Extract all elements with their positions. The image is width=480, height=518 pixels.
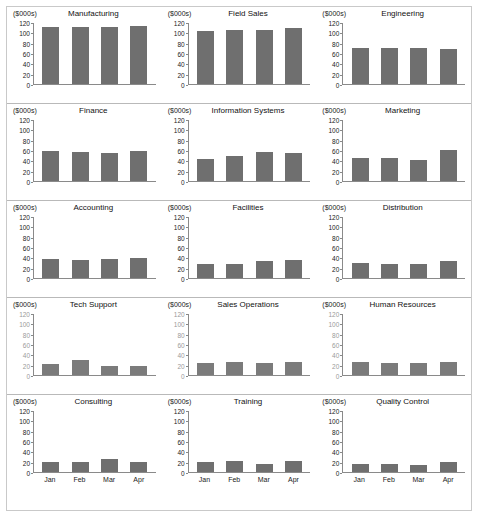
bar[interactable] — [42, 364, 59, 375]
bar[interactable] — [130, 26, 147, 84]
plot-canvas — [342, 23, 465, 85]
bar[interactable] — [226, 461, 243, 472]
bar[interactable] — [72, 360, 89, 376]
bar[interactable] — [226, 156, 243, 181]
bar[interactable] — [130, 258, 147, 278]
bar[interactable] — [285, 362, 302, 375]
y-axis-tick-label: 40 — [177, 255, 184, 262]
y-axis-tick-label: 60 — [332, 148, 339, 155]
bar[interactable] — [352, 48, 369, 84]
plot-area: 020406080100120 — [11, 23, 156, 99]
bar[interactable] — [381, 264, 398, 278]
bar[interactable] — [101, 366, 118, 375]
bar[interactable] — [226, 264, 243, 278]
bar[interactable] — [226, 362, 243, 375]
y-axis-tick-label: 60 — [23, 148, 30, 155]
bar[interactable] — [72, 152, 89, 181]
bar[interactable] — [285, 153, 302, 181]
y-axis-tick-label: 80 — [177, 137, 184, 144]
bar[interactable] — [101, 27, 118, 84]
bar[interactable] — [440, 49, 457, 84]
bar[interactable] — [285, 260, 302, 278]
bar[interactable] — [197, 462, 214, 472]
plot-canvas — [342, 411, 465, 473]
bar[interactable] — [197, 31, 214, 84]
x-axis-tick-label: Mar — [101, 475, 118, 484]
chart-panel: ($000s)Information Systems02040608010012… — [162, 104, 317, 200]
chart-panel: ($000s)Field Sales020406080100120 — [162, 7, 317, 103]
bar[interactable] — [130, 151, 147, 181]
bar[interactable] — [440, 261, 457, 278]
plot-area: 020406080100120 — [11, 314, 156, 390]
bar[interactable] — [285, 461, 302, 472]
x-axis-tick-label: Feb — [226, 475, 243, 484]
bar[interactable] — [101, 153, 118, 181]
plot-canvas — [188, 120, 311, 182]
bar[interactable] — [256, 152, 273, 181]
chart-panel: ($000s)Tech Support020406080100120 — [7, 298, 162, 394]
bar[interactable] — [72, 27, 89, 84]
bar[interactable] — [352, 464, 369, 472]
y-axis-tick-label: 0 — [26, 470, 30, 477]
y-axis-tick-label: 100 — [19, 418, 30, 425]
bar[interactable] — [256, 261, 273, 278]
bar[interactable] — [381, 48, 398, 84]
bar[interactable] — [440, 462, 457, 472]
bar[interactable] — [197, 363, 214, 375]
panel-title: Training — [162, 397, 317, 407]
bar[interactable] — [410, 160, 427, 181]
bar[interactable] — [72, 260, 89, 278]
bar[interactable] — [381, 158, 398, 181]
bar-series — [34, 411, 156, 472]
bar[interactable] — [42, 151, 59, 181]
y-axis-tick-mark — [31, 85, 33, 86]
bar[interactable] — [381, 363, 398, 375]
panel-header: ($000s)Information Systems — [162, 106, 317, 120]
panel-header: ($000s)Engineering — [316, 9, 471, 23]
y-axis-tick-mark — [340, 473, 342, 474]
bar[interactable] — [440, 150, 457, 181]
y-axis-tick-label: 0 — [336, 373, 340, 380]
bar[interactable] — [197, 159, 214, 181]
y-axis-tick-label: 20 — [177, 168, 184, 175]
bar[interactable] — [72, 462, 89, 472]
bar[interactable] — [352, 263, 369, 279]
bar[interactable] — [410, 48, 427, 84]
bar[interactable] — [285, 28, 302, 84]
y-axis-tick-label: 120 — [328, 408, 339, 415]
chart-panel: ($000s)Quality Control020406080100120Jan… — [316, 395, 471, 508]
bar[interactable] — [256, 30, 273, 84]
y-axis-tick-mark — [340, 182, 342, 183]
bar[interactable] — [42, 462, 59, 472]
x-axis-tick-label: Apr — [285, 475, 302, 484]
y-axis-tick-label: 120 — [328, 311, 339, 318]
y-axis-tick-label: 20 — [332, 168, 339, 175]
chart-panel: ($000s)Accounting020406080100120 — [7, 201, 162, 297]
bar[interactable] — [101, 259, 118, 278]
bar[interactable] — [440, 362, 457, 375]
bar[interactable] — [410, 363, 427, 375]
bar[interactable] — [130, 462, 147, 472]
bar[interactable] — [256, 363, 273, 375]
y-axis-tick-mark — [31, 376, 33, 377]
bar[interactable] — [42, 27, 59, 84]
y-axis-tick-label: 100 — [174, 127, 185, 134]
bar[interactable] — [256, 464, 273, 472]
y-axis-tick-label: 100 — [328, 418, 339, 425]
bar-series — [189, 314, 311, 375]
bar[interactable] — [381, 464, 398, 472]
bar[interactable] — [197, 264, 214, 278]
bar[interactable] — [42, 259, 59, 278]
bar[interactable] — [226, 30, 243, 84]
y-axis-tick-label: 20 — [23, 459, 30, 466]
y-axis-tick-label: 80 — [177, 331, 184, 338]
bar[interactable] — [101, 459, 118, 472]
y-axis: 020406080100120 — [166, 120, 188, 182]
plot-canvas — [33, 23, 156, 85]
bar[interactable] — [352, 158, 369, 181]
plot-area: 020406080100120 — [166, 217, 311, 293]
bar[interactable] — [130, 366, 147, 375]
bar[interactable] — [352, 362, 369, 375]
bar[interactable] — [410, 465, 427, 472]
bar[interactable] — [410, 264, 427, 278]
